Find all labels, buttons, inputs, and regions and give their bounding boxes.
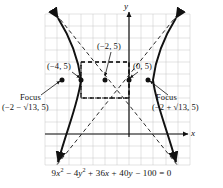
equation-term-3: 36 bbox=[96, 168, 105, 178]
focus-left-label: Focus (−2 − √13, 5) bbox=[2, 93, 49, 113]
y-axis-label: y bbox=[124, 1, 128, 11]
vertex-left-label: (−4, 5) bbox=[47, 62, 71, 72]
plot-points bbox=[60, 78, 151, 83]
equation-term-5: 100 bbox=[143, 168, 157, 178]
vertex-right-label: (0, 5) bbox=[133, 62, 152, 72]
focus-right-coords: (−2 + √13, 5) bbox=[152, 103, 199, 113]
equation-caption: 9x2 − 4y2 + 36x + 40y − 100 = 0 bbox=[0, 168, 223, 178]
focus-left-coords: (−2 − √13, 5) bbox=[2, 103, 49, 113]
vertex-right-point bbox=[127, 78, 132, 83]
equation-rhs: 0 bbox=[167, 168, 172, 178]
equation-term-2-exp: 2 bbox=[82, 167, 85, 173]
right-branch bbox=[153, 18, 176, 162]
center-point bbox=[103, 78, 108, 83]
equation-term-4-var: y bbox=[129, 168, 133, 178]
left-branch bbox=[58, 18, 81, 162]
x-axis-label: x bbox=[191, 128, 195, 138]
focus-right-point bbox=[146, 78, 151, 83]
leader-lines bbox=[41, 52, 168, 95]
coordinate-axes bbox=[45, 12, 188, 137]
center-label: (−2, 5) bbox=[97, 42, 121, 52]
focus-right-label: Focus (−2 + √13, 5) bbox=[152, 93, 199, 113]
vertex-left-point bbox=[79, 78, 84, 83]
equation-term-3-var: x bbox=[105, 168, 109, 178]
equation-op-1: − bbox=[66, 168, 71, 178]
grid-lines bbox=[45, 14, 190, 165]
equation-term-1-exp: 2 bbox=[60, 167, 63, 173]
equation-op-3: + bbox=[112, 168, 117, 178]
equation-equals: = bbox=[159, 168, 164, 178]
equation-op-2: + bbox=[88, 168, 93, 178]
equation-op-4: − bbox=[135, 168, 140, 178]
hyperbola-figure: y x (−2, 5) (−4, 5) (0, 5) Focus (−2 − √… bbox=[0, 0, 223, 188]
equation-term-4: 40 bbox=[119, 168, 128, 178]
focus-left-point bbox=[60, 78, 65, 83]
